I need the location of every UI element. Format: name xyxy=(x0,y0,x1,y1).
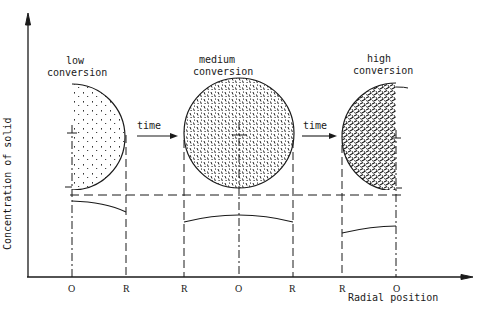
time-arrow-1 xyxy=(137,133,178,139)
x-axis-arrow-icon xyxy=(461,275,473,280)
y-axis-arrow-icon xyxy=(26,13,31,25)
tick-medium-R-left: R xyxy=(181,283,188,294)
x-axis-label: Radial position xyxy=(348,292,438,303)
stage-low-label-1: low xyxy=(66,55,84,66)
concentration-profile-high xyxy=(342,226,396,233)
time-arrow-2-label: time xyxy=(303,120,327,131)
concentration-profile-low xyxy=(72,201,126,212)
stage-medium-label-1: medium xyxy=(199,54,235,65)
stage-high-label-2: conversion xyxy=(353,65,413,76)
stage-high-label-1: high xyxy=(367,53,391,64)
tick-low-R: R xyxy=(123,283,130,294)
stage-low xyxy=(19,84,126,277)
tick-high-R: R xyxy=(339,283,346,294)
time-arrow-1-label: time xyxy=(137,120,161,131)
time-arrow-2 xyxy=(302,133,337,139)
stage-medium xyxy=(184,78,294,277)
diagram-graphics xyxy=(0,0,504,315)
stage-high xyxy=(342,83,450,277)
y-axis-label: Concentration of solid xyxy=(2,118,13,250)
tick-medium-R-right: R xyxy=(289,283,296,294)
tick-medium-O: O xyxy=(235,283,242,294)
stage-medium-label-2: conversion xyxy=(193,66,253,77)
arrow-right-icon xyxy=(170,133,178,139)
arrow-right-icon xyxy=(329,133,337,139)
diagram-canvas: Concentration of solid low conversion me… xyxy=(0,0,504,315)
tick-low-O: O xyxy=(68,283,75,294)
stage-low-label-2: conversion xyxy=(47,67,107,78)
